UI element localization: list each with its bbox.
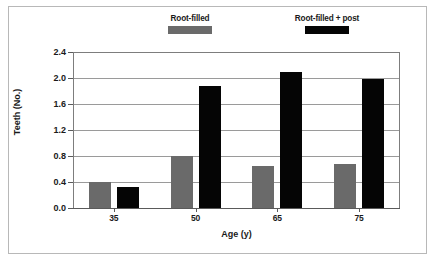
bar-75-series-1: [362, 79, 384, 208]
legend-swatch-root-filled-post: [305, 26, 349, 34]
chart-legend: Root-filled Root-filled + post: [73, 14, 400, 46]
x-tick-mark: [277, 208, 278, 212]
x-tick-label-65: 65: [257, 213, 297, 223]
bar-50-series-0: [171, 156, 193, 208]
legend-swatch-root-filled: [168, 26, 212, 34]
bar-series-container: [73, 52, 400, 208]
legend-label-root-filled: Root-filled: [145, 14, 235, 24]
x-tick-mark: [196, 208, 197, 212]
bar-75-series-0: [334, 164, 356, 208]
y-tick-label: 2.0: [42, 74, 66, 83]
x-tick-label-35: 35: [94, 213, 134, 223]
x-axis-title: Age (y): [73, 229, 400, 239]
y-tick-label: 0.8: [42, 152, 66, 161]
legend-item-root-filled-post: Root-filled + post: [269, 14, 385, 34]
bar-65-series-1: [280, 72, 302, 209]
y-tick-mark: [68, 208, 73, 209]
legend-label-root-filled-post: Root-filled + post: [269, 14, 385, 24]
x-axis-line: [73, 208, 400, 209]
bar-35-series-0: [89, 182, 111, 208]
y-tick-label: 1.2: [42, 126, 66, 135]
bar-65-series-0: [252, 166, 274, 208]
bar-35-series-1: [117, 187, 139, 208]
x-tick-mark: [114, 208, 115, 212]
legend-item-root-filled: Root-filled: [145, 14, 235, 34]
y-tick-label: 2.4: [42, 48, 66, 57]
x-tick-mark: [359, 208, 360, 212]
y-tick-label: 0.0: [42, 204, 66, 213]
y-axis-tick-labels: 0.00.40.81.21.62.02.4: [38, 0, 66, 263]
y-axis-title: Teeth (No.): [12, 62, 22, 162]
chart-figure: Root-filled Root-filled + post 0.00.40.8…: [0, 0, 437, 263]
x-tick-label-75: 75: [339, 213, 379, 223]
y-tick-label: 0.4: [42, 178, 66, 187]
bar-50-series-1: [199, 86, 221, 208]
y-tick-label: 1.6: [42, 100, 66, 109]
x-tick-label-50: 50: [176, 213, 216, 223]
